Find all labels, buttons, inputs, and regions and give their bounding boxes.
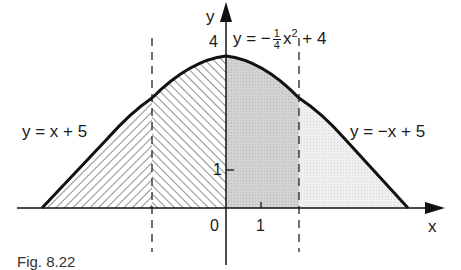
parabola-label: y = −14x2 + 4 (233, 28, 326, 51)
x-axis-label: x (428, 218, 437, 235)
y-axis-arrow-icon (220, 2, 232, 22)
x-tick-1-label: 1 (256, 218, 265, 234)
y-tick-4-label: 4 (209, 34, 218, 50)
fraction-denominator: 4 (273, 40, 281, 51)
y-axis-label: y (206, 8, 215, 25)
figure-caption: Fig. 8.22 (17, 253, 75, 270)
left-line-label: y = x + 5 (22, 123, 87, 140)
parabola-label-suffix: + 4 (298, 29, 327, 48)
parabola-label-prefix: y = − (233, 29, 271, 48)
right-line-label: y = −x + 5 (350, 123, 425, 140)
x-axis-arrow-icon (425, 202, 445, 214)
region-right-inner (226, 56, 299, 208)
region-left-inner (152, 56, 226, 208)
y-tick-1-label: 1 (213, 162, 222, 178)
fraction: 14 (273, 28, 281, 51)
origin-label: 0 (210, 218, 219, 234)
